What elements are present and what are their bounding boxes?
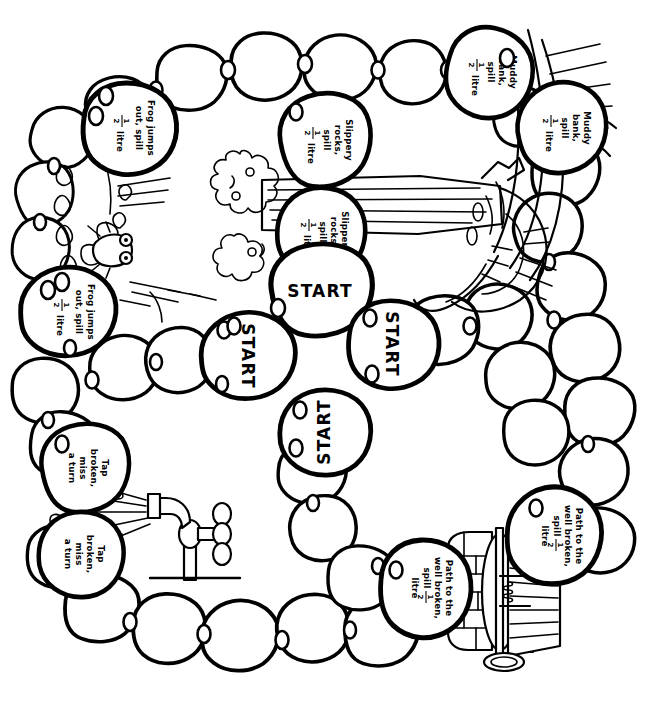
hazard-label-line: rocks, xyxy=(333,125,343,156)
hazard-label-line: spill xyxy=(560,117,570,138)
pebble-connector xyxy=(307,495,319,511)
track-stone[interactable] xyxy=(129,590,209,667)
pebble-connector xyxy=(582,436,594,452)
fraction-numerator: 1 xyxy=(309,223,317,228)
pebble-connector xyxy=(41,281,55,299)
hazard-label-line: spill xyxy=(422,567,432,588)
pebble-connector xyxy=(390,562,403,579)
pebble-connector xyxy=(89,107,103,125)
hazard-label-line: broken, xyxy=(89,449,99,487)
hazard-label-line: Frog jumps xyxy=(146,100,156,156)
fraction-denominator: 2 xyxy=(112,119,120,124)
hazard-label-line: a turn xyxy=(67,453,77,484)
pebble-connector xyxy=(344,622,356,639)
fraction-denominator: 2 xyxy=(299,223,307,228)
hazard-label-line: out, spill xyxy=(134,106,144,151)
pebble-connector xyxy=(500,49,514,67)
fraction-denominator: 2 xyxy=(541,119,549,124)
pebble-connector xyxy=(372,62,385,79)
hazard-label-line: Tap xyxy=(96,545,106,562)
pebble-connector xyxy=(64,340,76,356)
hazard-stone-slippery-upper[interactable]: Slippery rocks, spill 1 2 litre xyxy=(276,89,376,191)
start-label: START xyxy=(287,281,353,301)
pebble-connector xyxy=(221,61,235,79)
pebble-connector xyxy=(216,376,228,392)
hazard-label-line: spill xyxy=(552,515,562,536)
start-label: START xyxy=(382,311,402,377)
pebble-connector xyxy=(290,440,303,457)
hazard-label-line: well broken, xyxy=(563,505,573,567)
hazard-label-line: Path to the xyxy=(444,560,454,616)
pebble-connector xyxy=(56,436,69,453)
pebble-connector xyxy=(276,631,289,649)
start-label: START xyxy=(238,323,258,389)
hazard-label-line: Slippery xyxy=(344,119,354,161)
pebble-connector xyxy=(364,310,377,327)
hazard-label-unit: litre xyxy=(115,131,125,152)
hazard-label-line: out, spill xyxy=(74,290,84,335)
game-board: Frog jumps out, spill 1 2 litre Frog jum… xyxy=(0,0,661,727)
fraction-numerator: 1 xyxy=(551,119,559,124)
fraction-numerator: 1 xyxy=(122,119,130,124)
pebble-connector xyxy=(290,104,303,121)
fraction-denominator: 2 xyxy=(467,63,475,68)
hazard-label-unit: litre xyxy=(306,143,316,164)
pebble-connector xyxy=(55,273,69,291)
hazard-label-line: broken, xyxy=(85,535,95,573)
start-label: START xyxy=(314,399,334,465)
hazard-label-line: spill xyxy=(486,61,496,82)
hazard-label-line: bank, xyxy=(571,114,581,142)
pebble-connector xyxy=(124,613,137,631)
hazard-label-line: miss xyxy=(78,457,88,480)
start-stone-right[interactable]: START xyxy=(345,298,442,392)
fraction-numerator: 1 xyxy=(313,131,321,136)
hazard-label-line: well broken, xyxy=(433,557,443,619)
pebble-connector xyxy=(294,402,307,419)
hazard-label-line: a turn xyxy=(63,539,73,570)
hazard-label-line: Frog jumps xyxy=(86,284,96,340)
hazard-label-line: spill xyxy=(322,129,332,150)
fraction-numerator: 1 xyxy=(477,63,485,68)
hazard-label-unit: litre xyxy=(540,525,550,546)
hazard-label-line: Muddy xyxy=(582,111,592,145)
pebble-connector xyxy=(298,55,312,73)
pebble-connector xyxy=(530,500,543,517)
pebble-connector xyxy=(548,312,561,329)
pebble-connector xyxy=(271,299,285,317)
hazard-label-line: spill xyxy=(318,221,328,242)
hazard-label-line: Path to the xyxy=(574,508,584,564)
fraction-denominator: 2 xyxy=(303,131,311,136)
fraction-numerator: 1 xyxy=(556,543,564,548)
start-stone-left[interactable]: START xyxy=(198,309,298,401)
hazard-label-line: miss xyxy=(74,543,84,566)
fraction-numerator: 1 xyxy=(426,595,434,600)
pebble-connector xyxy=(42,412,54,428)
pebble-connector xyxy=(228,318,241,335)
fraction-numerator: 1 xyxy=(62,303,70,308)
pebble-connector xyxy=(366,366,379,383)
track-stone[interactable] xyxy=(377,39,448,106)
hazard-label-unit: litre xyxy=(544,131,554,152)
fraction-denominator: 2 xyxy=(52,303,60,308)
pebble-connector xyxy=(198,625,211,643)
hazard-label-line: Tap xyxy=(100,459,110,476)
pebble-connector xyxy=(464,318,477,335)
track-stone[interactable] xyxy=(227,29,306,103)
pebble-connector xyxy=(86,372,99,389)
hazard-stone-frog-upper[interactable]: Frog jumps out, spill 1 2 litre xyxy=(80,80,180,178)
pebble-connector xyxy=(34,214,46,230)
hazard-label-unit: litre xyxy=(55,315,65,336)
hazard-label-unit: litre xyxy=(410,577,420,598)
pebble-connector xyxy=(150,354,162,370)
pebble-connector xyxy=(99,87,113,105)
hazard-label-unit: litre xyxy=(470,75,480,96)
